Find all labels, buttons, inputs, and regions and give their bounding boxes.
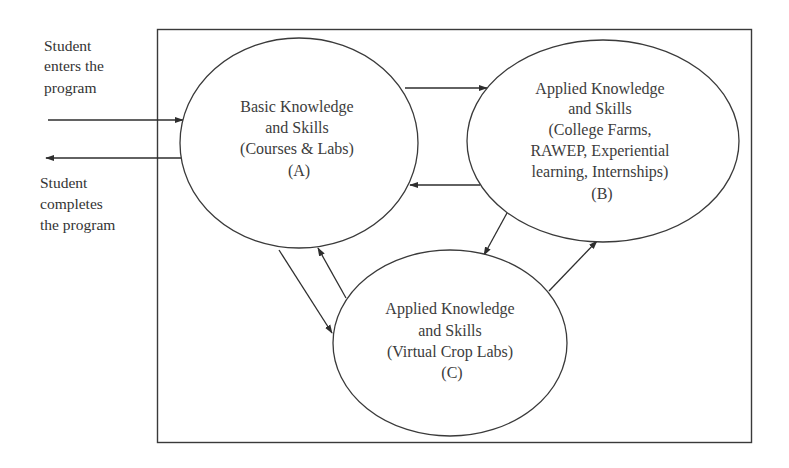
entry-label: Student enters the program <box>44 37 108 96</box>
edge-a-to-c <box>279 250 332 333</box>
node-b-line-5: learning, Internships) <box>532 163 669 181</box>
exit-label: Student completes the program <box>40 174 115 233</box>
node-b-line-3: (College Farms, <box>548 121 651 139</box>
node-a-basic-knowledge: Basic Knowledge and Skills (Courses & La… <box>180 38 418 248</box>
node-c-virtual-crop-labs: Applied Knowledge and Skills (Virtual Cr… <box>333 250 567 436</box>
exit-label-line-1: Student <box>40 174 88 191</box>
program-flow-diagram: Basic Knowledge and Skills (Courses & La… <box>0 0 789 468</box>
exit-label-line-3: the program <box>40 216 115 233</box>
edge-c-to-a <box>318 248 346 298</box>
exit-label-line-2: completes <box>40 195 103 212</box>
edge-c-to-b <box>549 241 597 291</box>
entry-label-line-1: Student <box>44 37 92 54</box>
node-b-ellipse <box>467 40 739 242</box>
entry-label-line-2: enters the <box>44 57 104 74</box>
node-b-line-2: and Skills <box>568 100 632 117</box>
node-a-line-2: and Skills <box>265 119 329 136</box>
node-b-applied-knowledge: Applied Knowledge and Skills (College Fa… <box>467 40 739 242</box>
node-a-line-4: (A) <box>288 162 310 180</box>
entry-label-line-3: program <box>44 79 97 96</box>
node-c-line-1: Applied Knowledge <box>385 300 514 318</box>
node-c-line-4: (C) <box>441 364 462 382</box>
edge-b-to-c <box>484 213 507 255</box>
node-b-line-6: (B) <box>591 185 612 203</box>
node-c-line-3: (Virtual Crop Labs) <box>387 343 513 361</box>
node-a-line-1: Basic Knowledge <box>240 98 353 116</box>
node-b-line-1: Applied Knowledge <box>535 80 664 98</box>
node-c-line-2: and Skills <box>418 322 482 339</box>
node-a-line-3: (Courses & Labs) <box>240 140 354 158</box>
node-b-line-4: RAWEP, Experiential <box>530 142 670 160</box>
